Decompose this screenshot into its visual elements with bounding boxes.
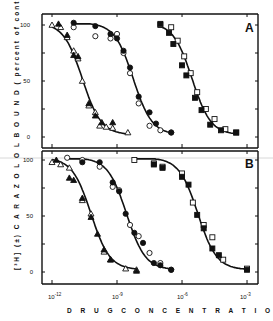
- panel-a-label: A: [245, 21, 254, 35]
- data-point: [167, 30, 172, 35]
- data-point: [147, 250, 152, 255]
- data-point: [71, 20, 76, 25]
- data-point: [127, 222, 132, 227]
- data-point: [136, 101, 141, 106]
- data-point: [199, 108, 204, 113]
- x-tick-1e-6: 10-6: [177, 292, 188, 300]
- data-point: [127, 71, 132, 76]
- y-axis-title: [³H] (±) C A R A Z O L O L B O U N D ( p…: [13, 0, 21, 270]
- panel-b: [42, 151, 258, 284]
- series-square-open: [158, 23, 239, 136]
- data-point: [108, 31, 113, 36]
- data-point: [158, 21, 163, 26]
- series-square-filled: [151, 162, 249, 272]
- data-point: [190, 200, 195, 205]
- data-point: [140, 240, 145, 245]
- data-point: [158, 263, 163, 268]
- data-point: [110, 125, 116, 130]
- series-circle-open: [65, 155, 174, 272]
- y-tick-b-50: 50: [26, 213, 33, 219]
- data-point: [195, 90, 200, 95]
- fit-curve: [52, 27, 128, 134]
- data-point: [49, 22, 55, 27]
- x-tick-1e-9: 10-9: [112, 292, 123, 300]
- data-point: [110, 119, 116, 124]
- data-point: [79, 78, 85, 83]
- data-point: [114, 36, 119, 41]
- data-point: [169, 267, 174, 272]
- data-point: [132, 230, 137, 235]
- panel-a: [42, 14, 258, 148]
- data-point: [127, 65, 132, 70]
- data-point: [65, 155, 70, 160]
- data-point: [95, 231, 101, 236]
- data-point: [186, 182, 191, 187]
- data-point: [193, 95, 198, 100]
- x-tick-1e-3: 10-3: [240, 292, 251, 300]
- x-tick-1e-12: 10-12: [48, 292, 62, 300]
- data-point: [182, 54, 187, 59]
- data-point: [117, 189, 122, 194]
- data-point: [66, 175, 72, 180]
- y-tick-a-0: 0: [27, 134, 31, 140]
- data-point: [210, 246, 215, 251]
- data-point: [121, 48, 126, 53]
- y-tick-a-100: 100: [20, 22, 31, 28]
- data-point: [132, 158, 137, 163]
- data-point: [245, 267, 250, 272]
- data-point: [169, 25, 174, 30]
- data-point: [93, 24, 98, 29]
- data-point: [158, 128, 163, 133]
- data-point: [171, 42, 176, 47]
- fit-curve: [67, 159, 171, 269]
- data-point: [216, 253, 221, 258]
- panel-b-label: B: [245, 157, 254, 171]
- data-point: [147, 110, 152, 115]
- series-circle-filled: [71, 20, 174, 135]
- data-point: [110, 180, 115, 185]
- data-point: [151, 162, 156, 167]
- series-circle-open: [71, 25, 174, 135]
- y-tick-a-50: 50: [23, 78, 30, 84]
- data-point: [234, 130, 239, 135]
- series-square-filled: [158, 21, 239, 135]
- data-point: [169, 130, 174, 135]
- data-point: [97, 160, 102, 165]
- data-point: [180, 63, 185, 68]
- y-tick-b-100: 100: [23, 157, 34, 163]
- data-point: [212, 117, 217, 122]
- data-point: [136, 94, 141, 99]
- data-point: [160, 165, 165, 170]
- y-tick-b-0: 0: [30, 269, 34, 275]
- data-point: [64, 32, 70, 37]
- x-axis-title: D R U G C O N C E N T R A T I O N (M): [67, 307, 273, 315]
- data-point: [125, 130, 131, 135]
- data-point: [80, 160, 85, 165]
- chart-figure: A B 100 50 0 100 50 0 10-12 10-9 10-6 10…: [0, 0, 273, 321]
- data-point: [153, 121, 158, 126]
- data-point: [123, 211, 128, 216]
- data-point: [210, 235, 215, 240]
- data-point: [184, 73, 189, 78]
- series-triangle-filled: [56, 21, 116, 125]
- data-point: [219, 128, 224, 133]
- data-point: [201, 226, 206, 231]
- data-point: [208, 122, 213, 127]
- fit-curve: [74, 24, 172, 133]
- data-point: [195, 212, 200, 217]
- data-point: [101, 247, 107, 252]
- data-point: [151, 260, 156, 265]
- data-point: [180, 174, 185, 179]
- x-tick-labels: 10-12 10-9 10-6 10-3: [48, 292, 251, 300]
- data-point: [93, 34, 98, 39]
- data-point: [147, 123, 152, 128]
